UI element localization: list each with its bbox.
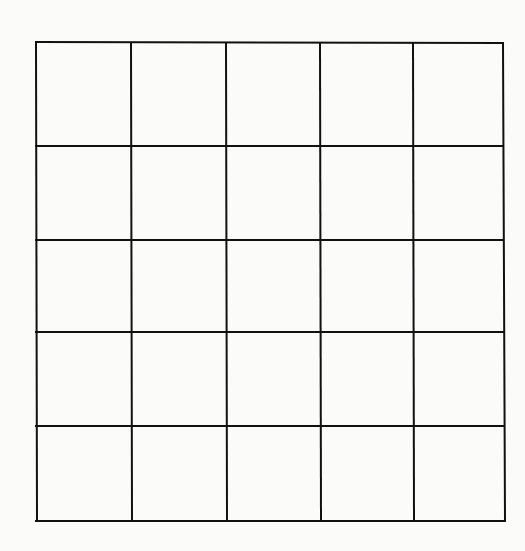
- grid-cell-r4-c2: [131, 332, 226, 426]
- grid-cell-r2-c5: [413, 146, 503, 240]
- grid-vertical-line: [503, 43, 505, 521]
- grid-vertical-line: [226, 43, 227, 521]
- grid-vertical-line: [131, 43, 132, 521]
- grid-cell-r2-c1: [36, 146, 131, 240]
- grid-cell-r4-c5: [413, 332, 503, 426]
- grid-cell-r3-c3: [226, 240, 320, 332]
- grid-cell-r3-c2: [131, 240, 226, 332]
- grid-vertical-line: [320, 43, 321, 521]
- grid-cell-r1-c4: [320, 43, 413, 146]
- grid-cell-r4-c3: [226, 332, 320, 426]
- grid-cell-r5-c2: [131, 426, 226, 521]
- grid-cell-r3-c5: [413, 240, 503, 332]
- grid-diagram: [0, 0, 525, 551]
- grid-cell-r1-c1: [36, 43, 131, 146]
- grid-cell-r2-c2: [131, 146, 226, 240]
- grid-cell-r2-c3: [226, 146, 320, 240]
- grid-cell-r1-c5: [413, 43, 503, 146]
- grid-cell-r3-c4: [320, 240, 413, 332]
- grid-horizontal-line: [36, 42, 503, 43]
- grid-cell-r4-c4: [320, 332, 413, 426]
- grid-cell-r5-c4: [320, 426, 413, 521]
- grid-cell-r5-c1: [36, 426, 131, 521]
- grid-cell-r1-c2: [131, 43, 226, 146]
- grid-cell-r5-c3: [226, 426, 320, 521]
- grid-cell-r4-c1: [36, 332, 131, 426]
- diagram-canvas: [0, 0, 525, 551]
- grid-cell-r1-c3: [226, 43, 320, 146]
- grid-cell-r5-c5: [413, 426, 503, 521]
- grid-vertical-line: [413, 43, 414, 521]
- grid-cell-r2-c4: [320, 146, 413, 240]
- grid-cell-r3-c1: [36, 240, 131, 332]
- grid-vertical-line: [36, 43, 37, 521]
